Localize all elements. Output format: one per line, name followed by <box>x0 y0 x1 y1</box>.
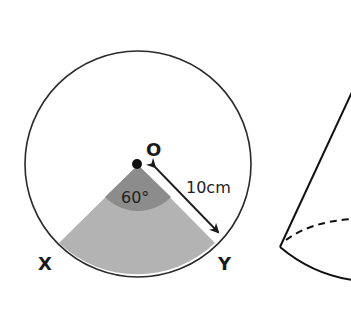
label-radius: 10cm <box>186 178 231 197</box>
label-center-o: O <box>146 139 161 160</box>
cone-figure <box>280 92 351 280</box>
label-angle: 60° <box>121 188 149 207</box>
label-point-y: Y <box>217 253 232 274</box>
label-point-x: X <box>38 253 52 274</box>
center-point-o <box>132 159 142 169</box>
diagram-canvas: O 10cm 60° X Y <box>0 0 351 321</box>
